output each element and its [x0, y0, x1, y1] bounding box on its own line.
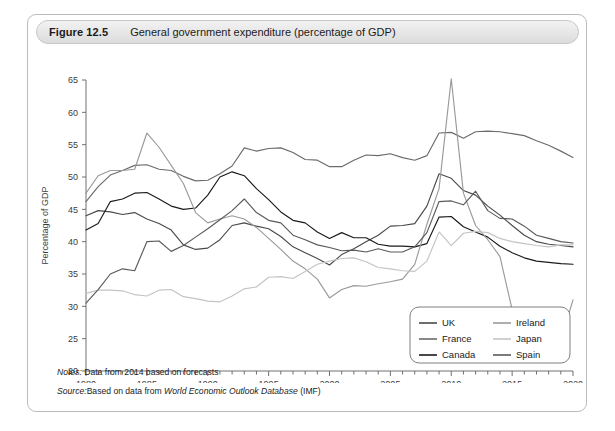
- x-tick-label: 2000: [319, 379, 339, 383]
- x-tick-label: 2015: [502, 379, 522, 383]
- y-tick-label: 30: [68, 302, 78, 312]
- x-tick-label: 1985: [137, 379, 157, 383]
- x-tick-label: 2020: [563, 379, 583, 383]
- y-tick-label: 60: [68, 108, 78, 118]
- legend-label-japan: Japan: [516, 333, 542, 344]
- figure-header: Figure 12.5 General government expenditu…: [36, 20, 579, 44]
- source-line: Source:Based on data from World Economic…: [57, 386, 321, 396]
- series-line-japan: [86, 231, 573, 301]
- legend-label-france: France: [442, 333, 472, 344]
- figure-card: Figure 12.5 General government expenditu…: [27, 14, 587, 412]
- y-tick-label: 35: [68, 269, 78, 279]
- notes-text: Data from 2014 based on forecasts: [84, 367, 218, 377]
- y-tick-label: 65: [68, 75, 78, 85]
- notes-line: Notes: Data from 2014 based on forecasts: [57, 367, 218, 377]
- y-tick-label: 55: [68, 140, 78, 150]
- figure-title: General government expenditure (percenta…: [130, 26, 395, 38]
- legend-label-uk: UK: [442, 317, 456, 328]
- x-tick-label: 2010: [441, 379, 461, 383]
- source-italic-title: World Economic Outlook Database: [164, 386, 298, 396]
- y-tick-label: 45: [68, 205, 78, 215]
- notes-label: Notes:: [57, 367, 82, 377]
- x-tick-label: 1990: [198, 379, 218, 383]
- legend-label-spain: Spain: [516, 349, 540, 360]
- legend-label-canada: Canada: [442, 349, 476, 360]
- source-suffix: (IMF): [298, 386, 321, 396]
- chart-plot-area: 20253035404550556065Percentage of GDP198…: [28, 45, 586, 383]
- figure-number: Figure 12.5: [49, 26, 108, 38]
- legend-label-ireland: Ireland: [516, 317, 545, 328]
- source-label: Source:: [57, 386, 87, 396]
- y-tick-label: 40: [68, 237, 78, 247]
- y-axis-title: Percentage of GDP: [40, 186, 50, 264]
- x-tick-label: 2005: [380, 379, 400, 383]
- series-line-ireland: [86, 79, 573, 340]
- series-line-uk: [86, 174, 573, 265]
- x-tick-label: 1980: [76, 379, 96, 383]
- series-line-france: [86, 131, 573, 201]
- y-tick-label: 25: [68, 334, 78, 344]
- x-tick-label: 1995: [259, 379, 279, 383]
- series-line-spain: [86, 191, 573, 303]
- source-prefix: Based on data from: [87, 386, 164, 396]
- y-tick-label: 50: [68, 172, 78, 182]
- line-chart: 20253035404550556065Percentage of GDP198…: [28, 45, 586, 383]
